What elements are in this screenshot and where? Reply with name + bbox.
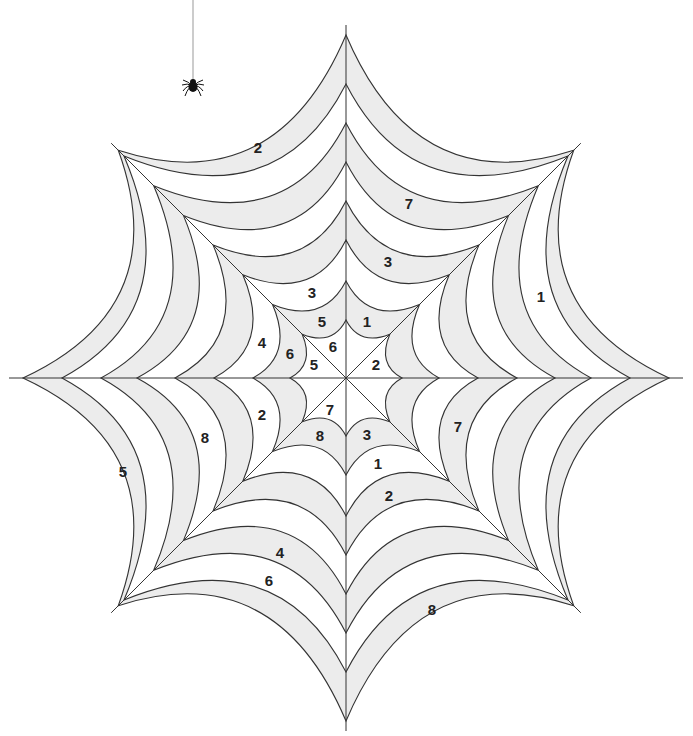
region-number: 8 bbox=[428, 601, 436, 618]
region-number: 7 bbox=[405, 195, 413, 212]
region-number: 7 bbox=[326, 401, 334, 418]
spider-web-puzzle: 273135146652287837125468 bbox=[0, 0, 693, 736]
region-number: 8 bbox=[201, 429, 209, 446]
region-number: 1 bbox=[363, 313, 371, 330]
region-number: 3 bbox=[308, 284, 316, 301]
region-number: 2 bbox=[372, 356, 380, 373]
region-number: 2 bbox=[385, 487, 393, 504]
spider-body bbox=[189, 82, 198, 92]
region-number: 5 bbox=[310, 356, 318, 373]
region-number: 8 bbox=[316, 427, 324, 444]
region-number: 7 bbox=[454, 418, 462, 435]
region-number: 3 bbox=[384, 253, 392, 270]
region-number: 1 bbox=[537, 288, 545, 305]
region-number: 2 bbox=[258, 406, 266, 423]
region-number: 4 bbox=[258, 334, 267, 351]
region-number: 6 bbox=[286, 345, 294, 362]
region-number: 4 bbox=[276, 544, 285, 561]
region-number: 5 bbox=[119, 463, 127, 480]
region-number: 2 bbox=[254, 139, 262, 156]
region-number: 6 bbox=[265, 572, 273, 589]
region-number: 1 bbox=[374, 455, 382, 472]
web-spokes bbox=[9, 25, 683, 731]
region-number: 5 bbox=[318, 313, 326, 330]
region-number: 6 bbox=[329, 338, 337, 355]
spider-icon bbox=[182, 0, 204, 96]
region-number: 3 bbox=[363, 426, 371, 443]
